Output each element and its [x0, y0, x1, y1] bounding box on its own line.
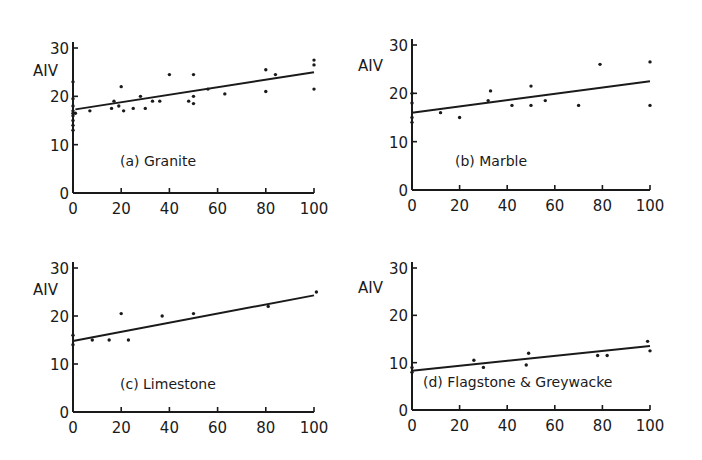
data-point: [151, 99, 154, 102]
panel-c-limestone: AIV (c) Limestone 0102030020406080100: [33, 260, 328, 437]
data-point: [223, 92, 226, 95]
data-point: [312, 58, 315, 61]
x-tick-label: 100: [300, 419, 329, 437]
x-tick-label: 40: [498, 417, 517, 435]
x-tick-label: 100: [636, 197, 665, 215]
x-tick-label: 60: [208, 200, 227, 218]
data-point: [71, 119, 74, 122]
x-tick-label: 40: [160, 419, 179, 437]
data-point: [71, 114, 74, 117]
x-tick-label: 100: [636, 417, 665, 435]
data-point: [71, 334, 74, 337]
y-tick-label: 20: [389, 307, 408, 325]
data-point: [71, 124, 74, 127]
x-tick-label: 100: [300, 200, 329, 218]
data-point: [410, 101, 413, 104]
data-point: [482, 366, 485, 369]
data-point: [605, 354, 608, 357]
data-point: [139, 95, 142, 98]
data-point: [486, 99, 489, 102]
data-point: [144, 107, 147, 110]
x-tick-label: 40: [498, 197, 517, 215]
panel-label: (c) Limestone: [120, 376, 216, 392]
data-point: [158, 99, 161, 102]
data-point: [312, 63, 315, 66]
y-axis-label: AIV: [33, 281, 59, 299]
data-point: [120, 312, 123, 315]
data-point: [410, 116, 413, 119]
axes: 0102030020406080100: [50, 40, 328, 218]
x-tick-label: 60: [545, 197, 564, 215]
regression-line: [73, 295, 314, 341]
x-tick-label: 60: [545, 417, 564, 435]
data-point: [71, 80, 74, 83]
data-point: [274, 73, 277, 76]
data-points: [410, 340, 651, 374]
data-point: [91, 338, 94, 341]
y-tick-label: 30: [389, 260, 408, 278]
data-point: [120, 85, 123, 88]
x-tick-label: 20: [450, 417, 469, 435]
data-point: [648, 104, 651, 107]
data-point: [192, 95, 195, 98]
axes: 0102030020406080100: [389, 260, 664, 435]
y-axis-label: AIV: [33, 62, 59, 80]
data-point: [648, 349, 651, 352]
data-point: [88, 109, 91, 112]
regression-line: [412, 346, 650, 371]
data-point: [529, 84, 532, 87]
panel-label: (b) Marble: [455, 153, 527, 169]
data-point: [646, 340, 649, 343]
x-tick-label: 40: [160, 200, 179, 218]
data-point: [648, 60, 651, 63]
data-point: [107, 338, 110, 341]
panel-label: (d) Flagstone & Greywacke: [423, 374, 612, 390]
data-point: [71, 104, 74, 107]
x-tick-label: 0: [68, 419, 78, 437]
x-tick-label: 20: [450, 197, 469, 215]
x-tick-label: 0: [407, 197, 417, 215]
data-point: [596, 354, 599, 357]
data-point: [74, 112, 77, 115]
y-tick-label: 30: [389, 37, 408, 55]
data-point: [127, 338, 130, 341]
data-point: [598, 63, 601, 66]
panel-b-marble: AIV (b) Marble 0102030020406080100: [358, 37, 664, 215]
y-tick-label: 10: [389, 134, 408, 152]
y-axis-label: AIV: [358, 279, 384, 297]
data-point: [529, 104, 532, 107]
data-point: [168, 73, 171, 76]
y-tick-label: 20: [50, 88, 69, 106]
data-point: [267, 305, 270, 308]
data-point: [410, 370, 413, 373]
data-points: [410, 60, 651, 124]
y-tick-label: 10: [50, 137, 69, 155]
data-point: [160, 314, 163, 317]
x-tick-label: 80: [256, 419, 275, 437]
x-tick-label: 20: [112, 419, 131, 437]
axes: 0102030020406080100: [389, 37, 664, 215]
data-point: [122, 109, 125, 112]
data-point: [192, 102, 195, 105]
data-point: [312, 87, 315, 90]
data-point: [206, 87, 209, 90]
x-tick-label: 80: [593, 197, 612, 215]
x-tick-label: 0: [68, 200, 78, 218]
data-point: [315, 290, 318, 293]
data-point: [527, 352, 530, 355]
data-point: [410, 366, 413, 369]
data-point: [544, 99, 547, 102]
data-point: [71, 97, 74, 100]
x-tick-label: 0: [407, 417, 417, 435]
data-point: [110, 107, 113, 110]
y-tick-label: 10: [389, 355, 408, 373]
axes: 0102030020406080100: [50, 260, 328, 437]
panel-d-flagstone-greywacke: AIV (d) Flagstone & Greywacke 0102030020…: [358, 260, 664, 435]
x-tick-label: 60: [208, 419, 227, 437]
data-point: [489, 89, 492, 92]
data-point: [192, 73, 195, 76]
y-tick-label: 30: [50, 260, 69, 278]
data-point: [264, 90, 267, 93]
data-point: [410, 121, 413, 124]
data-point: [192, 312, 195, 315]
